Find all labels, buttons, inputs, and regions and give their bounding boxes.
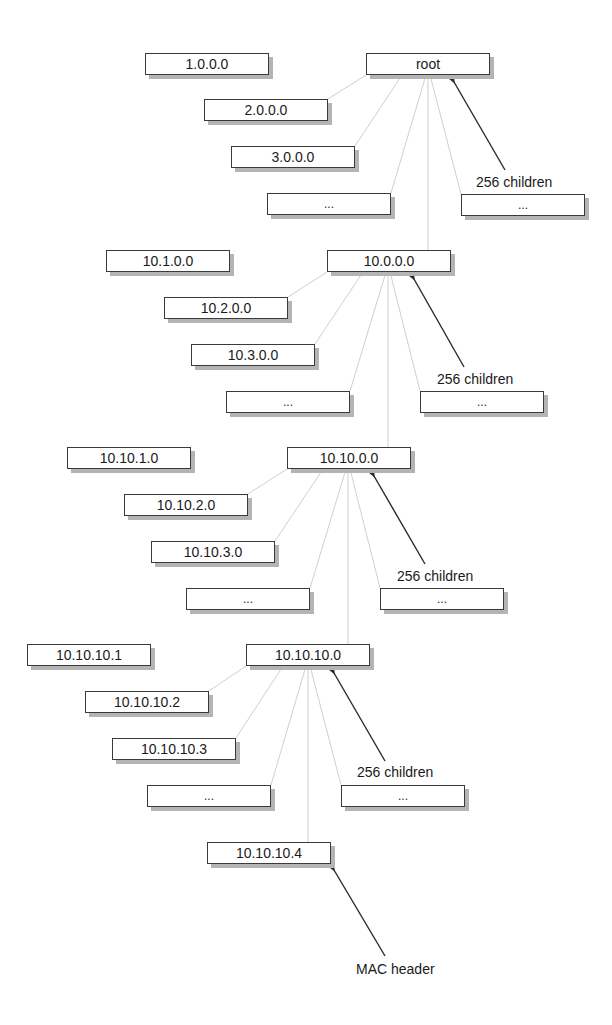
node-1-0-0-0: 1.0.0.0 (145, 53, 269, 75)
node-3-0-0-0: 3.0.0.0 (231, 146, 355, 168)
node-ellipsis-right: ... (380, 588, 504, 610)
node-10-10-10-4: 10.10.10.4 (207, 842, 331, 864)
arrow-256-children-root (454, 82, 505, 170)
arrow-256-children-l2 (374, 476, 425, 564)
node-10-1-0-0: 10.1.0.0 (106, 250, 230, 272)
node-ellipsis-left: ... (226, 391, 350, 413)
node-10-10-1-0: 10.10.1.0 (67, 447, 191, 469)
node-ellipsis-right: ... (461, 194, 585, 216)
annotation-256-children: 256 children (476, 174, 552, 190)
annotation-256-children: 256 children (357, 764, 433, 780)
arrow-mac-header (334, 870, 385, 956)
node-root: root (366, 53, 490, 75)
node-10-2-0-0: 10.2.0.0 (164, 297, 288, 319)
node-ellipsis-left: ... (186, 588, 310, 610)
node-10-10-0-0: 10.10.0.0 (287, 447, 411, 469)
node-10-10-10-0: 10.10.10.0 (246, 644, 370, 666)
node-ellipsis-right: ... (420, 391, 544, 413)
node-10-10-10-3: 10.10.10.3 (112, 738, 236, 760)
node-2-0-0-0: 2.0.0.0 (204, 99, 328, 121)
node-10-3-0-0: 10.3.0.0 (191, 344, 315, 366)
node-ellipsis-left: ... (267, 193, 391, 215)
node-10-10-10-2: 10.10.10.2 (85, 691, 209, 713)
node-10-0-0-0: 10.0.0.0 (327, 250, 451, 272)
node-10-10-2-0: 10.10.2.0 (124, 494, 248, 516)
annotation-256-children: 256 children (437, 371, 513, 387)
arrow-256-children-l1 (414, 279, 464, 367)
annotation-256-children: 256 children (397, 568, 473, 584)
arrow-256-children-l3 (334, 673, 385, 761)
node-10-10-10-1: 10.10.10.1 (27, 644, 151, 666)
node-ellipsis-right: ... (341, 785, 465, 807)
node-10-10-3-0: 10.10.3.0 (151, 541, 275, 563)
annotation-mac-header: MAC header (356, 961, 435, 977)
node-ellipsis-left: ... (147, 785, 271, 807)
